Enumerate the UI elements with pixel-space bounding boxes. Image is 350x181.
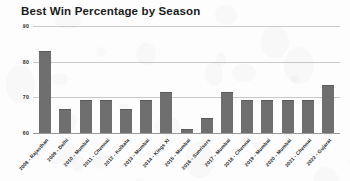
bar[interactable]	[160, 92, 172, 133]
bar-slot	[257, 26, 277, 133]
bar-slot	[217, 26, 237, 133]
bar-slot	[318, 26, 338, 133]
bar[interactable]	[80, 100, 92, 133]
plot-area: 60708090	[33, 26, 340, 133]
scan-noise	[215, 5, 237, 25]
bar-slot	[116, 26, 136, 133]
x-tick-label: 2008 - Rajasthan	[18, 137, 50, 172]
x-axis-labels: 2008 - Rajasthan2009 - Delhi2010 - Mumba…	[33, 136, 340, 181]
bar-slot	[35, 26, 55, 133]
bar[interactable]	[261, 100, 273, 133]
bar-slot	[96, 26, 116, 133]
bar[interactable]	[221, 92, 233, 133]
bar[interactable]	[201, 118, 213, 133]
chart-container: Best Win Percentage by Season 60708090 2…	[0, 0, 350, 181]
chart-title: Best Win Percentage by Season	[21, 5, 200, 17]
y-tick-label: 80	[23, 59, 29, 65]
y-tick-label: 90	[23, 23, 29, 29]
scan-noise	[6, 65, 36, 104]
bars-layer	[33, 26, 340, 133]
bar-slot	[75, 26, 95, 133]
bar-slot	[197, 26, 217, 133]
bar-slot	[298, 26, 318, 133]
bar[interactable]	[241, 100, 253, 133]
bar-slot	[277, 26, 297, 133]
x-label-slot: 2022 - Gujarat	[318, 136, 338, 181]
bar[interactable]	[140, 100, 152, 133]
y-tick-label: 70	[23, 94, 29, 100]
bar-slot	[237, 26, 257, 133]
bar-slot	[136, 26, 156, 133]
bar[interactable]	[302, 100, 314, 133]
bar[interactable]	[120, 109, 132, 133]
bar[interactable]	[100, 100, 112, 133]
bar[interactable]	[39, 51, 51, 133]
bar[interactable]	[322, 85, 334, 134]
y-tick-label: 60	[23, 130, 29, 136]
bar[interactable]	[59, 109, 71, 133]
bar-slot	[176, 26, 196, 133]
bar-slot	[55, 26, 75, 133]
bar-slot	[156, 26, 176, 133]
x-axis-line	[33, 133, 340, 134]
bar[interactable]	[282, 100, 294, 133]
